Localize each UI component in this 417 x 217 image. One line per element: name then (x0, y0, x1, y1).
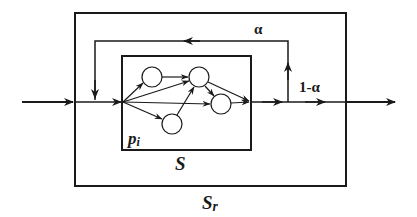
edge-n4-sink (231, 102, 249, 103)
probability-label: pi (128, 130, 140, 148)
node-2 (189, 67, 209, 87)
outer-system-box (75, 13, 346, 186)
alpha-label: α (254, 22, 262, 37)
inner-system-label: S (175, 154, 186, 173)
network-edges (123, 77, 249, 119)
node-1 (142, 67, 162, 87)
probability-label-main: p (128, 129, 137, 148)
outer-system-label-sub: r (213, 199, 218, 214)
edge-n3-n2 (177, 87, 194, 115)
edge-n2-n4 (205, 86, 214, 96)
edge-source-n3 (123, 102, 162, 119)
feedback-system-diagram (0, 0, 417, 217)
node-4 (211, 94, 231, 114)
outer-system-label: Sr (202, 193, 218, 214)
one-minus-alpha-label: 1-α (299, 80, 320, 95)
edge-source-n4 (123, 102, 210, 104)
node-3 (162, 114, 182, 134)
outer-system-label-main: S (202, 192, 213, 213)
probability-label-sub: i (137, 135, 140, 149)
